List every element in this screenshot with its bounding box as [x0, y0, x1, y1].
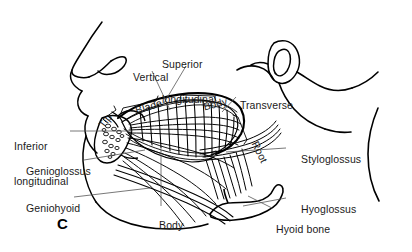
label-geniohyoid: Geniohyoid: [14, 191, 80, 226]
label-body-bottom-text: Body: [159, 219, 183, 231]
ear-outline: [251, 41, 299, 84]
leader-geniohyoid: [74, 188, 150, 197]
label-hyoid-bone-text: Hyoid bone: [276, 223, 330, 235]
label-body-top-text: Body: [202, 94, 229, 112]
label-styloglossus: Styloglossus: [289, 142, 361, 177]
panel-letter: C: [57, 215, 68, 232]
label-styloglossus-text: Styloglossus: [301, 153, 361, 165]
label-hyoid-bone: Hyoid bone: [264, 212, 330, 247]
label-inferior-longitudinal-line1: Inferior: [14, 141, 68, 153]
label-genioglossus-text: Genioglossus: [26, 165, 91, 177]
label-geniohyoid-text: Geniohyoid: [26, 202, 80, 214]
label-blade-text: Blade: [134, 96, 164, 115]
label-transverse-text: Transverse: [240, 99, 293, 111]
label-body-bottom: Body: [147, 208, 183, 243]
anatomical-figure-tongue-musculature: Vertical Superior longitudinal Blade Tip…: [0, 0, 412, 252]
label-transverse: Transverse: [228, 88, 293, 123]
label-genioglossus: Genioglossus: [14, 154, 91, 189]
label-superior-longitudinal-line1: Superior: [162, 59, 216, 71]
label-root-text: Root: [250, 139, 271, 165]
